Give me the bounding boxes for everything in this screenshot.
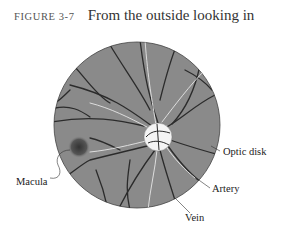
label-macula: Macula bbox=[16, 176, 48, 187]
label-artery: Artery bbox=[212, 183, 239, 194]
retina-fundus-diagram bbox=[0, 0, 289, 233]
macula-spot bbox=[68, 136, 90, 158]
label-optic-disk: Optic disk bbox=[223, 146, 266, 157]
leader-artery bbox=[196, 178, 210, 188]
label-vein: Vein bbox=[185, 212, 204, 223]
leader-vein bbox=[175, 198, 190, 213]
